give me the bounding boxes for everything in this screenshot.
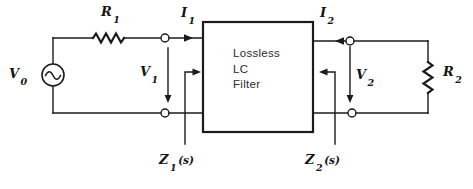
wire-bottom-right [313,109,428,117]
filter-box-line3: Filter [233,77,280,93]
terminal-node-output-bottom [348,109,356,117]
wire-top-right [313,37,428,45]
circuit-drawing [0,0,473,189]
terminal-node-input-top [161,34,169,42]
v2-voltage-arrow [347,47,354,103]
i2-current-arrowhead [335,37,344,44]
label-v1: V1 [140,65,157,78]
label-v2: V2 [356,68,373,81]
i1-current-arrowhead [184,34,193,41]
filter-box-label: Lossless LC Filter [233,46,280,93]
terminal-node-output-top [346,37,354,45]
label-v0: V0 [9,67,26,80]
label-z1: Z1(s) [159,153,194,166]
wire-top-left [53,34,203,43]
label-i1: I1 [181,6,194,19]
label-z2: Z2(s) [305,153,340,166]
label-r1: R1 [101,5,118,18]
label-r2: R2 [443,65,460,78]
z2-impedance-arrow [319,68,335,144]
z1-impedance-arrow [185,68,201,144]
filter-box-line1: Lossless [233,46,280,62]
resistor-r1-zigzag [93,34,124,43]
resistor-r2-zigzag [424,62,433,93]
load-branch-right [424,41,433,113]
filter-box-line2: LC [233,62,280,78]
source-branch-left [42,38,64,113]
terminal-node-input-bottom [161,109,169,117]
label-i2: I2 [320,6,333,19]
wire-bottom-left [53,109,203,117]
v1-voltage-arrow [165,48,172,103]
circuit-diagram: Lossless LC Filter V0 R1 I1 V1 I2 V2 R2 … [0,0,473,189]
